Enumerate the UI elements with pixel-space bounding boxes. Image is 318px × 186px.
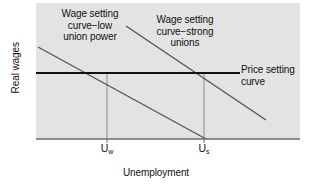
tick-us-base: U	[198, 142, 206, 154]
tick-uw-subscript: w	[108, 148, 113, 155]
x-axis-label: Unemployment	[96, 167, 216, 179]
wage-setting-strong-unions-label: Wage setting curve−strong unions	[139, 14, 231, 49]
labor-market-diagram: Wage setting curve−low union power Wage …	[0, 0, 318, 186]
wage-setting-low-union-label: Wage setting curve−low union power	[42, 8, 138, 43]
tick-us-subscript: s	[206, 148, 210, 155]
y-axis-label: Real wages	[10, 34, 22, 102]
price-setting-curve-label: Price setting curve	[241, 64, 317, 87]
x-tick-label-uw: Uw	[96, 142, 118, 154]
x-tick-label-us: Us	[193, 142, 215, 154]
